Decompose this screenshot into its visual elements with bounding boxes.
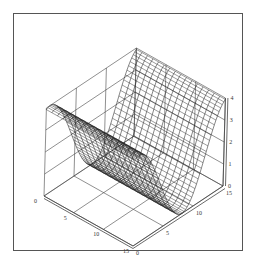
surface-mesh-line <box>133 55 222 105</box>
z-tick-label: 2 <box>229 139 232 145</box>
surface-mesh-line <box>97 159 186 209</box>
z-tick-label: 3 <box>230 117 233 123</box>
z-tick-label: 1 <box>229 161 232 167</box>
wall-grid-line <box>44 108 46 196</box>
y-tick-label: 0 <box>136 250 139 256</box>
surface-plot: 05101505101501234 <box>0 0 256 263</box>
wall-grid-line <box>45 92 135 152</box>
x-tick-label: 5 <box>64 215 67 221</box>
floor-grid-line <box>74 176 163 226</box>
y-tick-label: 15 <box>226 190 232 196</box>
y-tick-label: 5 <box>166 230 169 236</box>
surface-mesh-line <box>103 147 192 197</box>
z-axis <box>223 98 225 186</box>
x-tick-label: 15 <box>123 248 129 254</box>
surface-mesh-line <box>76 147 165 197</box>
wall-grid-line <box>46 48 136 108</box>
x-tick-label: 10 <box>93 231 99 237</box>
x-axis <box>44 196 133 246</box>
wall-grid-line <box>136 48 225 98</box>
surface-mesh-line <box>130 62 219 112</box>
z-axis-edge <box>226 98 228 186</box>
surface-mesh-line <box>136 49 225 99</box>
surface-mesh-line <box>78 150 167 200</box>
x-tick-label: 0 <box>34 198 37 204</box>
y-tick-label: 10 <box>196 210 202 216</box>
z-tick-label: 4 <box>230 95 233 101</box>
surface-mesh-line <box>100 154 189 204</box>
surface-mesh-line <box>68 125 157 175</box>
x-axis-edge <box>44 199 133 249</box>
z-tick-label: 0 <box>228 183 231 189</box>
y-axis <box>133 186 223 246</box>
wall-grid-line <box>46 70 136 130</box>
